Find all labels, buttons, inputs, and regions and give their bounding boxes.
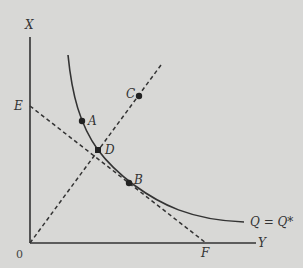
label-E: E: [13, 99, 23, 113]
horizontal-axis-label: Y: [258, 236, 267, 250]
isoquant-curve: [68, 55, 244, 222]
label-F: F: [200, 246, 210, 260]
point-D: [95, 147, 101, 153]
isoquant-diagram: X Y 0 E F A C D B Q = Q*: [0, 0, 303, 268]
label-D: D: [104, 143, 115, 157]
point-A: [79, 118, 85, 124]
ray-through-origin: [30, 65, 161, 243]
label-B: B: [133, 173, 143, 187]
point-B: [126, 180, 132, 186]
label-A: A: [87, 114, 97, 128]
isocost-line-EF: [30, 106, 206, 243]
isoquant-label: Q = Q*: [250, 215, 293, 229]
diagram-canvas: X Y 0 E F A C D B Q = Q*: [0, 0, 303, 268]
label-C: C: [126, 87, 135, 101]
point-C: [136, 93, 142, 99]
vertical-axis-label: X: [24, 18, 34, 32]
origin-label: 0: [16, 248, 23, 261]
